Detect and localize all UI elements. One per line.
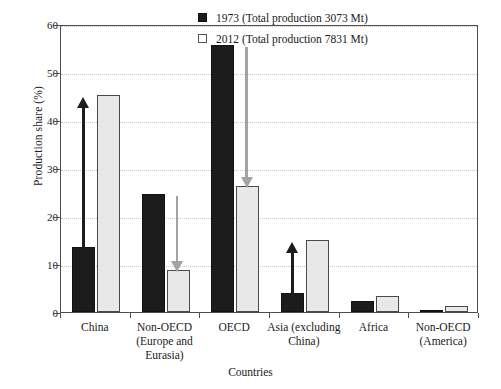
x-tick-mark-5 <box>408 313 409 318</box>
production-share-bar-chart: Production share (%) 0102030405060 China… <box>0 0 501 389</box>
legend-item-1973[interactable]: 1973 (Total production 3073 Mt) <box>198 7 368 28</box>
x-tick-label-non-oecd-america: Non-OECD(America) <box>400 320 486 348</box>
arrow-head <box>286 242 298 253</box>
y-tick-label-10: 10 <box>0 259 58 271</box>
x-tick-mark-4 <box>339 313 340 318</box>
bar-1973-china[interactable] <box>72 247 95 312</box>
x-tick-label-line: (Europe and <box>122 334 208 348</box>
chart-legend: 1973 (Total production 3073 Mt)2012 (Tot… <box>198 7 368 49</box>
y-tick-label-30: 30 <box>0 163 58 175</box>
x-tick-label-line: Eurasia) <box>122 348 208 362</box>
bar-1973-oecd[interactable] <box>211 45 234 312</box>
bar-1973-asia-excluding-china[interactable] <box>281 293 304 312</box>
trend-arrow-up-asia-excluding-china <box>285 242 299 295</box>
x-tick-mark-6 <box>478 313 479 318</box>
legend-label: 2012 (Total production 7831 Mt) <box>216 33 368 45</box>
bar-1973-africa[interactable] <box>351 301 374 312</box>
bar-2012-africa[interactable] <box>376 296 399 312</box>
bar-2012-china[interactable] <box>97 95 120 312</box>
arrow-shaft <box>291 250 293 295</box>
bar-2012-non-oecd-europe-and-eurasia[interactable] <box>167 270 190 312</box>
bar-2012-oecd[interactable] <box>236 186 259 312</box>
trend-arrow-down-oecd <box>240 47 254 189</box>
arrow-shaft <box>245 47 247 181</box>
x-tick-mark-1 <box>130 313 131 318</box>
legend-swatch-light <box>198 34 207 43</box>
arrow-head <box>77 97 89 108</box>
y-tick-label-0: 0 <box>0 307 58 319</box>
arrow-shaft <box>82 105 84 249</box>
x-tick-label-line: Non-OECD <box>400 320 486 334</box>
x-tick-mark-3 <box>269 313 270 318</box>
gridline-40 <box>61 122 477 123</box>
legend-item-2012[interactable]: 2012 (Total production 7831 Mt) <box>198 28 368 49</box>
arrow-head <box>241 177 253 188</box>
gridline-20 <box>61 218 477 219</box>
x-tick-label-line: (America) <box>400 334 486 348</box>
x-tick-label-line: China) <box>261 334 347 348</box>
bar-2012-asia-excluding-china[interactable] <box>306 240 329 312</box>
plot-area <box>60 25 478 313</box>
trend-arrow-up-china <box>76 97 90 249</box>
trend-arrow-down-non-oecd-europe-and-eurasia <box>170 196 184 272</box>
gridline-50 <box>61 74 477 75</box>
bar-1973-non-oecd-america[interactable] <box>420 310 443 312</box>
gridline-30 <box>61 170 477 171</box>
y-tick-label-60: 60 <box>0 19 58 31</box>
x-tick-mark-0 <box>60 313 61 318</box>
arrow-shaft <box>176 196 178 264</box>
y-tick-label-20: 20 <box>0 211 58 223</box>
gridline-10 <box>61 266 477 267</box>
bar-1973-non-oecd-europe-and-eurasia[interactable] <box>142 194 165 312</box>
x-axis-title: Countries <box>0 366 501 378</box>
bar-2012-non-oecd-america[interactable] <box>445 306 468 312</box>
arrow-head <box>171 261 183 272</box>
legend-swatch-dark <box>198 13 207 22</box>
y-tick-label-50: 50 <box>0 67 58 79</box>
legend-label: 1973 (Total production 3073 Mt) <box>216 12 368 24</box>
y-tick-label-40: 40 <box>0 115 58 127</box>
y-axis-title: Production share (%) <box>32 6 44 266</box>
x-tick-mark-2 <box>199 313 200 318</box>
